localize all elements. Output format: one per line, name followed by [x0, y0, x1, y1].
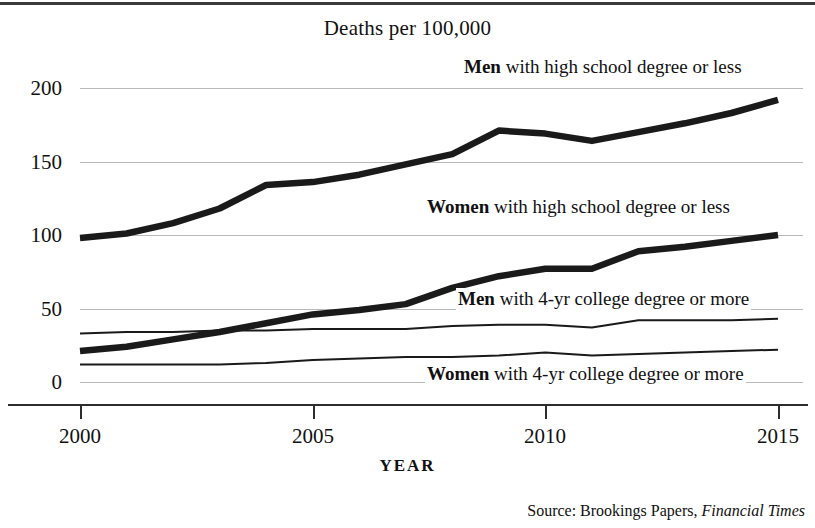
- series-label-men-college-text: with 4-yr college degree or more: [495, 288, 749, 309]
- x-axis-tick-label: 2005: [268, 424, 358, 449]
- series-label-women-college-text: with 4-yr college degree or more: [489, 363, 743, 384]
- x-axis-title: YEAR: [0, 456, 815, 476]
- x-axis-tick-label: 2015: [733, 424, 815, 449]
- chart-plot-area: 050100150200 2000200520102015 Men with h…: [0, 0, 815, 528]
- series-label-men-hs-emphasis: Men: [464, 56, 501, 77]
- source-publication: Financial Times: [701, 502, 805, 519]
- series-label-men-hs-text: with high school degree or less: [501, 56, 742, 77]
- x-axis-tick: [80, 406, 82, 419]
- source-note: Source: Brookings Papers, Financial Time…: [527, 502, 805, 520]
- x-axis-tick-label: 2010: [500, 424, 590, 449]
- series-label-men-college-emphasis: Men: [458, 288, 495, 309]
- series-label-men-college: Men with 4-yr college degree or more: [456, 288, 751, 310]
- series-label-women-college: Women with 4-yr college degree or more: [425, 363, 746, 385]
- series-label-women-hs-text: with high school degree or less: [489, 196, 730, 217]
- x-axis-line: [8, 404, 808, 406]
- series-label-men-high-school: Men with high school degree or less: [462, 56, 744, 78]
- source-prefix: Source: Brookings Papers,: [527, 502, 701, 519]
- series-label-women-high-school: Women with high school degree or less: [425, 196, 732, 218]
- x-axis-tick: [545, 406, 547, 419]
- series-line-2: [80, 319, 778, 334]
- series-label-women-college-emphasis: Women: [427, 363, 489, 384]
- series-label-women-hs-emphasis: Women: [427, 196, 489, 217]
- x-axis-tick: [313, 406, 315, 419]
- x-axis-tick: [778, 406, 780, 419]
- x-axis-tick-label: 2000: [35, 424, 125, 449]
